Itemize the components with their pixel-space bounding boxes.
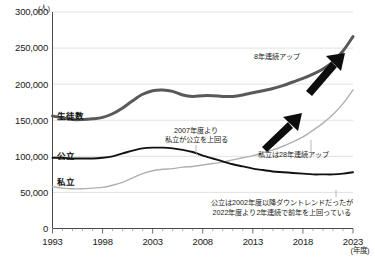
y-axis-unit-label: (人) [38,4,50,13]
x-tick-label-2008: 2008 [193,236,213,247]
annotation-private-up: 私立は28年連続アップ [258,150,330,159]
x-tick-label-2003: 2003 [142,236,162,247]
annotation-public-trend-line2: 2022年度より2年連続で前年を上回っている [213,208,352,217]
y-tick-label-150000: 150,000 [15,115,48,126]
annotation-total-up: 8年連続アップ [254,52,301,61]
x-tick-label-2013: 2013 [243,236,263,247]
y-tick-label-200000: 200,000 [15,79,48,90]
y-tick-label-250000: 250,000 [15,42,48,53]
x-tick-label-1993: 1993 [42,236,62,247]
y-tick-label-50000: 50,000 [20,187,48,198]
annotation-crossover-line1: 2007年度より [174,126,218,135]
series-label-private: 私立 [56,177,75,187]
y-tick-label-0: 0 [43,223,48,234]
x-tick-label-1998: 1998 [92,236,112,247]
x-tick-label-2018: 2018 [293,236,313,247]
annotation-crossover-line2: 私立が公立を上回る [165,135,228,144]
series-label-total: 生徒数 [57,111,84,121]
x-axis-unit-label: (年度) [351,245,370,255]
x-tick-label-2023: 2023 [343,236,363,247]
chart-container: 050,000100,000150,000200,000250,000300,0… [0,0,375,258]
y-tick-label-100000: 100,000 [15,151,48,162]
annotation-public-trend-line1: 公立は2002年度以降ダウントレンドだったが [211,198,353,207]
series-label-public: 公立 [57,151,75,161]
student-enrollment-line-chart: 050,000100,000150,000200,000250,000300,0… [0,0,375,258]
